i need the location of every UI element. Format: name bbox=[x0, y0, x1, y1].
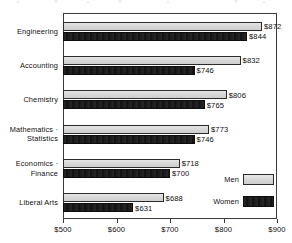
bar-women-0 bbox=[63, 32, 247, 41]
category-label: Mathematics · Statistics bbox=[0, 125, 58, 143]
bar-women-4 bbox=[63, 169, 170, 178]
category-label: Liberal Arts bbox=[0, 198, 58, 207]
category-label: Economics · Finance bbox=[0, 159, 58, 177]
bar-chart: EngineeringAccountingChemistryMathematic… bbox=[0, 0, 292, 243]
bar-women-1 bbox=[63, 66, 195, 75]
x-axis-tick-label: $500 bbox=[54, 225, 71, 234]
bar-men-0 bbox=[63, 22, 262, 31]
x-axis-tick-label: $800 bbox=[215, 225, 232, 234]
category-label: Chemistry bbox=[0, 95, 58, 104]
chart-legend: Men Women bbox=[198, 173, 274, 213]
category-label: Accounting bbox=[0, 61, 58, 70]
scan-noise-artifact bbox=[0, 0, 292, 5]
bar-women-3 bbox=[63, 135, 195, 144]
bar-men-4 bbox=[63, 159, 180, 168]
x-axis-tick bbox=[224, 219, 225, 223]
bar-value-label: $631 bbox=[135, 204, 152, 213]
x-axis-tick bbox=[277, 219, 278, 223]
category-axis-labels: EngineeringAccountingChemistryMathematic… bbox=[0, 13, 60, 219]
x-axis-tick bbox=[63, 219, 64, 223]
bar-value-label: $832 bbox=[243, 56, 260, 65]
bar-value-label: $688 bbox=[166, 194, 183, 203]
x-axis-tick-label: $600 bbox=[108, 225, 125, 234]
bar-value-label: $844 bbox=[249, 32, 266, 41]
bar-value-label: $806 bbox=[229, 91, 246, 100]
bar-women-5 bbox=[63, 203, 133, 212]
bar-value-label: $746 bbox=[197, 66, 214, 75]
bar-men-5 bbox=[63, 193, 164, 202]
bar-value-label: $746 bbox=[197, 135, 214, 144]
bar-men-1 bbox=[63, 56, 241, 65]
category-label: Engineering bbox=[0, 27, 58, 36]
bar-value-label: $718 bbox=[182, 159, 199, 168]
x-axis-tick bbox=[170, 219, 171, 223]
bar-men-3 bbox=[63, 125, 209, 134]
x-axis-tick-label: $900 bbox=[268, 225, 285, 234]
bar-men-2 bbox=[63, 90, 227, 99]
legend-entry-women: Women bbox=[198, 195, 274, 208]
legend-swatch-women bbox=[243, 196, 274, 207]
x-axis-tick-label: $700 bbox=[161, 225, 178, 234]
x-axis-tick bbox=[117, 219, 118, 223]
bar-value-label: $773 bbox=[211, 125, 228, 134]
bar-value-label: $872 bbox=[264, 22, 281, 31]
bar-women-2 bbox=[63, 100, 205, 109]
legend-label-men: Men bbox=[224, 175, 239, 184]
bar-value-label: $700 bbox=[172, 169, 189, 178]
legend-swatch-men bbox=[243, 174, 274, 185]
bar-value-label: $765 bbox=[207, 101, 224, 110]
legend-label-women: Women bbox=[213, 197, 239, 206]
legend-entry-men: Men bbox=[198, 173, 274, 186]
